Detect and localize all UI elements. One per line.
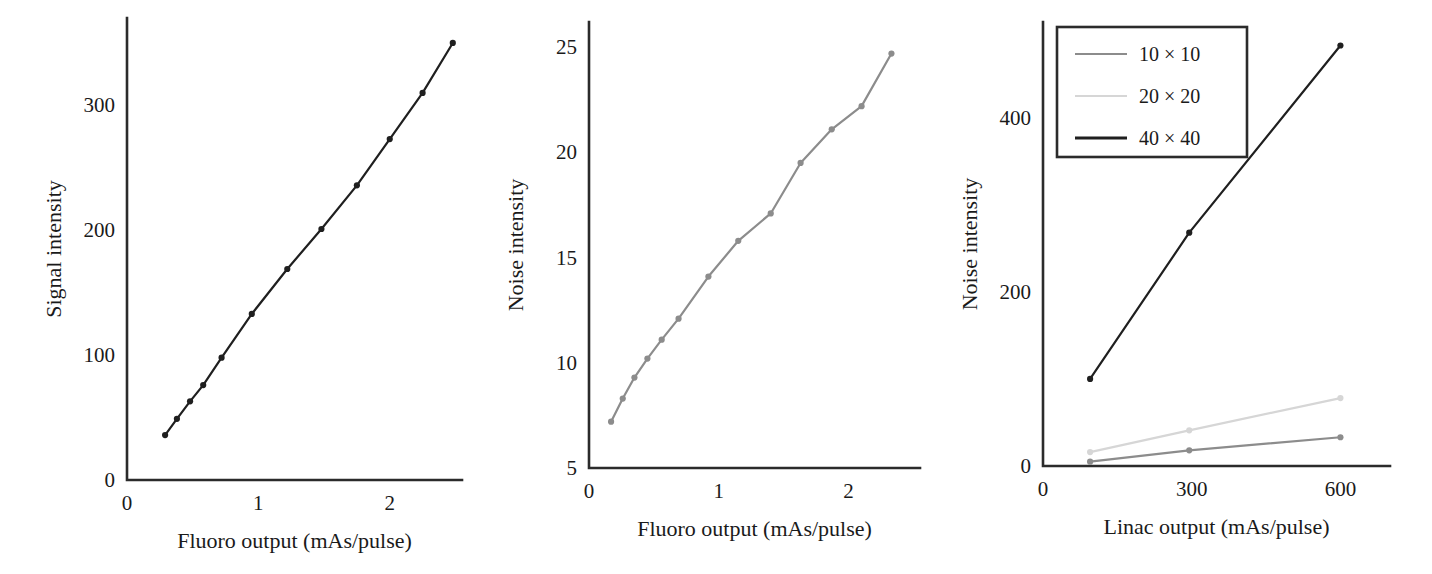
data-point-marker — [1087, 449, 1093, 455]
series-line — [1090, 437, 1340, 461]
x-tick-label: 1 — [714, 479, 725, 503]
y-tick-label: 0 — [1020, 454, 1031, 478]
legend-label: 20 × 20 — [1139, 85, 1200, 107]
y-tick-label: 100 — [84, 343, 116, 367]
x-tick-label: 300 — [1176, 477, 1208, 501]
three-panel-figure: 0100200300012Fluoro output (mAs/pulse)Si… — [0, 0, 1432, 574]
legend-label: 40 × 40 — [1139, 127, 1200, 149]
chart-panel-c: 02004000300600Linac output (mAs/pulse)No… — [955, 0, 1432, 574]
data-point-marker — [419, 90, 425, 96]
plot-area-panel-c: 02004000300600Linac output (mAs/pulse)No… — [955, 0, 1432, 574]
chart-panel-b: 510152025012Fluoro output (mAs/pulse)Noi… — [477, 0, 954, 574]
x-tick-label: 0 — [584, 479, 595, 503]
data-point-marker — [1337, 395, 1343, 401]
y-tick-label: 400 — [999, 106, 1031, 130]
y-tick-label: 0 — [105, 468, 116, 492]
y-tick-label: 10 — [556, 351, 577, 375]
x-tick-label: 2 — [844, 479, 855, 503]
data-point-marker — [1087, 459, 1093, 465]
data-point-marker — [889, 50, 895, 56]
x-tick-label: 0 — [1037, 477, 1048, 501]
plot-area-panel-a: 0100200300012Fluoro output (mAs/pulse)Si… — [0, 0, 477, 574]
data-point-marker — [632, 374, 638, 380]
x-axis-title: Fluoro output (mAs/pulse) — [177, 528, 412, 553]
data-point-marker — [284, 266, 290, 272]
data-point-marker — [735, 238, 741, 244]
data-point-marker — [162, 432, 168, 438]
data-point-marker — [608, 419, 614, 425]
y-tick-label: 300 — [84, 93, 116, 117]
data-point-marker — [768, 210, 774, 216]
data-point-marker — [187, 398, 193, 404]
data-point-marker — [218, 355, 224, 361]
data-point-marker — [450, 40, 456, 46]
y-axis-title: Noise intensity — [503, 179, 528, 312]
x-axis-title: Fluoro output (mAs/pulse) — [637, 516, 872, 541]
data-point-marker — [387, 136, 393, 142]
data-point-marker — [1186, 427, 1192, 433]
y-tick-label: 15 — [556, 246, 577, 270]
y-axis-title: Noise intensity — [957, 178, 982, 311]
x-tick-label: 600 — [1324, 477, 1356, 501]
data-point-marker — [676, 316, 682, 322]
y-axis-title: Signal intensity — [41, 180, 66, 318]
data-point-marker — [798, 160, 804, 166]
data-point-marker — [829, 126, 835, 132]
data-point-marker — [645, 356, 651, 362]
data-point-marker — [706, 273, 712, 279]
series-line — [1090, 398, 1340, 452]
plot-area-panel-b: 510152025012Fluoro output (mAs/pulse)Noi… — [477, 0, 955, 574]
y-tick-label: 5 — [567, 456, 578, 480]
data-point-marker — [1087, 376, 1093, 382]
y-tick-label: 25 — [556, 35, 577, 59]
chart-panel-a: 0100200300012Fluoro output (mAs/pulse)Si… — [0, 0, 477, 574]
data-point-marker — [1186, 447, 1192, 453]
data-point-marker — [318, 226, 324, 232]
y-tick-label: 200 — [999, 280, 1031, 304]
data-point-marker — [174, 416, 180, 422]
y-tick-label: 200 — [84, 218, 116, 242]
data-point-marker — [249, 311, 255, 317]
series-line — [165, 43, 453, 435]
x-tick-label: 2 — [384, 491, 395, 515]
data-point-marker — [620, 395, 626, 401]
data-point-marker — [200, 382, 206, 388]
x-tick-label: 1 — [253, 491, 264, 515]
x-tick-label: 0 — [122, 491, 133, 515]
data-point-marker — [1337, 42, 1343, 48]
data-point-marker — [659, 337, 665, 343]
data-point-marker — [354, 182, 360, 188]
axis-lines — [127, 18, 462, 480]
x-axis-title: Linac output (mAs/pulse) — [1103, 514, 1329, 539]
legend-label: 10 × 10 — [1139, 43, 1200, 65]
series-line — [611, 54, 891, 422]
data-point-marker — [1337, 434, 1343, 440]
data-point-marker — [859, 103, 865, 109]
data-point-marker — [1186, 230, 1192, 236]
y-tick-label: 20 — [556, 140, 577, 164]
